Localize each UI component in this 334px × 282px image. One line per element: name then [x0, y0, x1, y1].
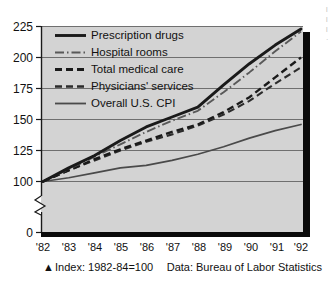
index-note-marker-icon: ▲ [43, 261, 54, 273]
edge-fragment-line-2: l [326, 16, 328, 23]
edge-fragment-line-3: l [326, 26, 328, 33]
x-axis-baseline [41, 232, 310, 237]
x-tick-labels: '82 '83 '84 '85 '86 '87 '88 '89 '90 '91 … [36, 241, 308, 253]
index-note: Index: 1982-84=100 [55, 261, 153, 273]
xtick-label-1992: '92 [294, 241, 308, 253]
ytick-label-150: 150 [13, 113, 33, 127]
xtick-label-1989: '89 [218, 241, 232, 253]
edge-fragment-line-1: l [326, 6, 328, 13]
plot-background [41, 26, 303, 232]
ytick-label-175: 175 [13, 82, 33, 96]
chart-figure: 225 200 175 150 125 100 0 '82 '83 '84 '8… [0, 0, 334, 282]
xtick-label-1986: '86 [140, 241, 154, 253]
ytick-label-100: 100 [13, 175, 33, 189]
xtick-label-1987: '87 [166, 241, 180, 253]
xtick-label-1983: '83 [62, 241, 76, 253]
ytick-label-225: 225 [13, 20, 33, 34]
legend-label-overall-us-cpi: Overall U.S. CPI [91, 97, 175, 109]
source-note: Data: Bureau of Labor Statistics [167, 261, 323, 273]
ytick-label-200: 200 [13, 51, 33, 65]
legend-label-total-medical-care: Total medical care [91, 63, 184, 75]
xtick-label-1982: '82 [36, 241, 50, 253]
xtick-label-1988: '88 [192, 241, 206, 253]
xtick-label-1990: '90 [244, 241, 258, 253]
xtick-label-1985: '85 [114, 241, 128, 253]
edge-fragment-line-4: · [326, 36, 328, 43]
legend-label-prescription-drugs: Prescription drugs [91, 29, 184, 41]
legend-label-hospital-rooms: Hospital rooms [91, 46, 168, 58]
line-chart-svg: 225 200 175 150 125 100 0 '82 '83 '84 '8… [0, 0, 334, 282]
ytick-label-125: 125 [13, 144, 33, 158]
xtick-label-1991: '91 [270, 241, 284, 253]
legend-label-physicians-services: Physicians' services [91, 80, 194, 92]
xtick-label-1984: '84 [88, 241, 102, 253]
ytick-label-0: 0 [26, 226, 33, 240]
edge-text-fragment: l l l · [326, 6, 328, 43]
y-tick-labels: 225 200 175 150 125 100 0 [13, 20, 33, 240]
